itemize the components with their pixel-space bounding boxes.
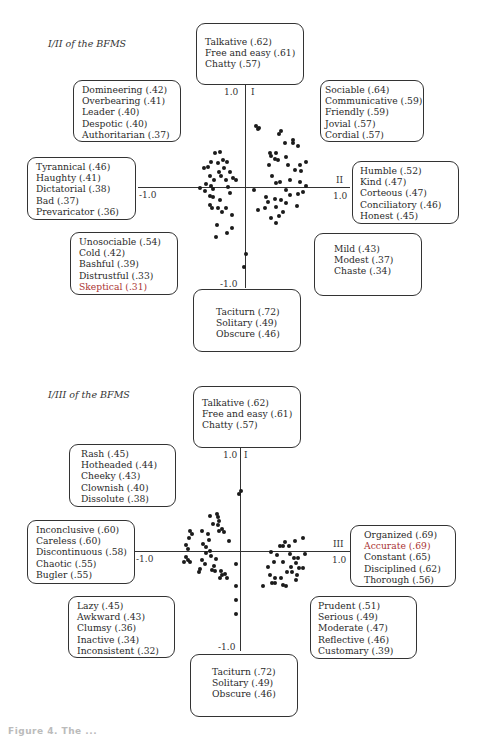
scatter-dot <box>216 523 220 527</box>
scatter-dot <box>272 560 276 564</box>
axis-vertical-label: I <box>244 450 248 460</box>
scatter-dot <box>273 581 277 585</box>
scatter-dot <box>237 492 241 496</box>
box-top: Talkative (.62) Free and easy (.61) Chat… <box>193 386 301 448</box>
scatter-dot <box>209 554 213 558</box>
scatter-dot <box>225 576 229 580</box>
scatter-dot <box>206 532 210 536</box>
scatter-dot <box>261 584 265 588</box>
scatter-dot <box>211 522 215 526</box>
horizontal-axis <box>134 551 350 552</box>
scatter-dot <box>188 560 192 564</box>
scatter-dot <box>297 566 301 570</box>
box-lower-right: Prudent (.51) Serious (.49) Moderate (.4… <box>310 596 417 659</box>
scatter-dot <box>268 573 272 577</box>
scatter-dot <box>218 576 222 580</box>
scatter-dot <box>208 514 212 518</box>
scatter-dot <box>234 584 238 588</box>
panel-i-iii: I/III of the BFMS 1.0 I -1.0 -1.0 III 1.… <box>0 0 485 736</box>
scatter-dot <box>234 612 238 616</box>
scatter-dot <box>203 562 207 566</box>
scatter-dot <box>279 576 283 580</box>
scatter-dot <box>293 539 297 543</box>
scatter-dot <box>227 539 231 543</box>
scatter-dot <box>266 565 270 569</box>
box-upper-left: Rash (.45) Hotheaded (.44) Cheeky (.43) … <box>69 444 176 507</box>
scatter-dot <box>182 560 186 564</box>
scatter-dot <box>301 566 305 570</box>
scatter-dot <box>287 544 291 548</box>
axis-top-tick: 1.0 <box>223 450 237 460</box>
scatter-dot <box>285 570 289 574</box>
axis-right-tick: 1.0 <box>332 555 346 565</box>
scatter-dot <box>204 545 208 549</box>
scatter-dot <box>207 538 211 542</box>
scatter-dot <box>222 530 226 534</box>
scatter-dot <box>303 552 307 556</box>
box-right: Organized (.69) Accurate (.69) Constant … <box>350 525 456 587</box>
axis-horizontal-label: III <box>333 539 344 549</box>
scatter-dot <box>288 552 292 556</box>
scatter-dot <box>273 576 277 580</box>
box-lower-left: Lazy (.45) Awkward (.43) Clumsy (.36) In… <box>68 596 175 658</box>
scatter-dot <box>186 547 190 551</box>
scatter-dot <box>281 560 285 564</box>
scatter-dot <box>301 536 305 540</box>
scatter-dot <box>283 540 287 544</box>
scatter-dot <box>294 561 298 565</box>
vertical-axis <box>240 447 241 651</box>
scatter-dot <box>234 562 238 566</box>
scatter-dot <box>197 570 201 574</box>
scatter-dot <box>289 565 293 569</box>
scatter-dot <box>213 569 217 573</box>
panel-title: I/III of the BFMS <box>48 389 130 400</box>
scatter-dot <box>269 550 273 554</box>
scatter-dot <box>284 584 288 588</box>
axis-bottom-tick: -1.0 <box>218 642 235 652</box>
box-left: Inconclusive (.60) Careless (.60) Discon… <box>27 520 135 584</box>
scatter-dot <box>190 532 194 536</box>
scatter-dot <box>296 556 300 560</box>
scatter-dot <box>208 549 212 553</box>
scatter-dot <box>200 529 204 533</box>
scatter-dot <box>295 573 299 577</box>
scatter-dot <box>187 536 191 540</box>
box-bottom: Taciturn (.72) Solitary (.49) Obscure (.… <box>190 654 298 717</box>
figure-caption: Figure 4. The ... <box>8 726 97 736</box>
scatter-dot <box>290 570 294 574</box>
scatter-dot <box>294 578 298 582</box>
axis-left-tick: -1.0 <box>136 554 153 564</box>
scatter-dot <box>214 557 218 561</box>
scatter-dot <box>234 598 238 602</box>
scatter-dot <box>281 544 285 548</box>
scatter-dot <box>275 553 279 557</box>
